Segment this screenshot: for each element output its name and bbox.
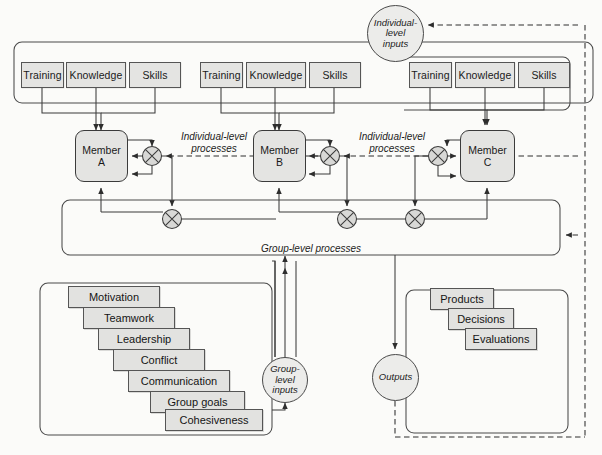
- input-box-knowledge-a: Knowledge: [66, 62, 126, 88]
- group-level-processes-label: Group-level processes: [241, 243, 381, 255]
- member-a-line1: Member: [82, 144, 121, 156]
- outputs-label: Outputs: [379, 372, 412, 383]
- outputs-circle: Outputs: [372, 354, 419, 401]
- ilp1-line2: processes: [159, 143, 269, 155]
- member-b-line2: B: [276, 156, 283, 168]
- stack-item-motivation: Motivation: [68, 286, 160, 308]
- stack-item-products: Products: [430, 288, 494, 310]
- stack-item-communication: Communication: [128, 370, 230, 392]
- member-box-c: Member C: [460, 130, 515, 182]
- stack-item-leadership: Leadership: [98, 328, 190, 350]
- stack-item-evaluations: Evaluations: [465, 328, 537, 350]
- stack-item-conflict: Conflict: [113, 349, 205, 371]
- input-box-skills-a: Skills: [129, 62, 181, 88]
- input-box-training-b: Training: [200, 62, 243, 88]
- member-box-a: Member A: [75, 130, 128, 182]
- member-c-line2: C: [484, 156, 492, 168]
- diagram-canvas: Training Knowledge Skills Training Knowl…: [0, 0, 602, 455]
- stack-item-teamwork: Teamwork: [83, 307, 175, 329]
- individual-inputs-line3: inputs: [383, 39, 408, 50]
- input-box-skills-c: Skills: [518, 62, 570, 88]
- individual-level-processes-label-2: Individual-level processes: [337, 131, 447, 155]
- individual-level-processes-label-1: Individual-level processes: [159, 131, 269, 155]
- ilp2-line2: processes: [337, 143, 447, 155]
- individual-level-inputs-circle: Individual- level inputs: [367, 5, 424, 62]
- member-a-line2: A: [98, 156, 105, 168]
- input-box-training-a: Training: [21, 62, 64, 88]
- member-c-line1: Member: [468, 144, 507, 156]
- group-inputs-line3: inputs: [272, 385, 297, 396]
- input-box-knowledge-c: Knowledge: [455, 62, 515, 88]
- group-level-inputs-circle: Group- level inputs: [262, 357, 308, 403]
- input-box-skills-b: Skills: [309, 62, 361, 88]
- ilp2-line1: Individual-level: [337, 131, 447, 143]
- stack-item-decisions: Decisions: [448, 308, 514, 330]
- stack-item-cohesiveness: Cohesiveness: [165, 409, 263, 431]
- ilp1-line1: Individual-level: [159, 131, 269, 143]
- input-box-knowledge-b: Knowledge: [246, 62, 306, 88]
- input-box-training-c: Training: [409, 62, 452, 88]
